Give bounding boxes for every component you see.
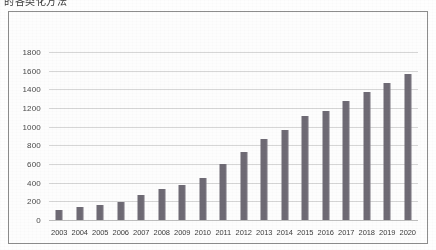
y-axis-tick-label: 0 [36, 216, 41, 225]
x-axis-tick-label: 2005 [92, 228, 108, 237]
bar[interactable] [384, 83, 391, 220]
bar-slot [295, 52, 316, 220]
page-root: 的各类化方法 020040060080010001200140016001800… [0, 0, 436, 250]
y-axis: 020040060080010001200140016001800 [9, 52, 45, 220]
y-axis-tick-label: 1400 [22, 85, 41, 94]
bar[interactable] [363, 92, 370, 220]
bar-slot [70, 52, 91, 220]
bar[interactable] [97, 205, 104, 220]
y-axis-tick-label: 400 [27, 179, 41, 188]
bar[interactable] [179, 185, 186, 220]
x-axis-tick-label: 2008 [154, 228, 170, 237]
bar-slot [336, 52, 357, 220]
y-axis-tick-label: 800 [27, 141, 41, 150]
x-axis-tick-label: 2020 [400, 228, 416, 237]
bar-slot [234, 52, 255, 220]
x-axis-tick-label: 2010 [195, 228, 211, 237]
y-axis-tick-label: 200 [27, 197, 41, 206]
bar-slot [111, 52, 132, 220]
bar[interactable] [56, 210, 63, 220]
top-caption-text: 的各类化方法 [4, 0, 67, 7]
y-axis-tick-label: 1600 [22, 67, 41, 76]
bar-slot [254, 52, 275, 220]
x-axis-tick-label: 2013 [256, 228, 272, 237]
bar-slot [398, 52, 419, 220]
bar[interactable] [322, 111, 329, 220]
x-axis-tick-label: 2016 [318, 228, 334, 237]
x-axis-tick-label: 2004 [72, 228, 88, 237]
bar-slot [193, 52, 214, 220]
bar-slot [90, 52, 111, 220]
bar-slot [49, 52, 70, 220]
x-axis-tick-label: 2014 [277, 228, 293, 237]
bar-slot [152, 52, 173, 220]
bar[interactable] [343, 101, 350, 220]
bar-slot [131, 52, 152, 220]
bar[interactable] [281, 130, 288, 220]
bar-slot [172, 52, 193, 220]
gridline [49, 220, 418, 221]
bar[interactable] [404, 74, 411, 220]
bar[interactable] [302, 116, 309, 220]
x-axis-tick-label: 2019 [379, 228, 395, 237]
bar[interactable] [220, 164, 227, 220]
x-axis-tick-label: 2011 [215, 228, 231, 237]
bar-slot [377, 52, 398, 220]
x-axis-tick-label: 2003 [51, 228, 67, 237]
bar[interactable] [76, 207, 83, 220]
bar-slot [316, 52, 337, 220]
x-axis-tick-label: 2018 [359, 228, 375, 237]
chart-frame: 020040060080010001200140016001800 200320… [8, 11, 428, 244]
bar[interactable] [117, 202, 124, 220]
plot-area [49, 52, 418, 220]
y-axis-tick-label: 1800 [22, 48, 41, 57]
x-axis-tick-label: 2007 [133, 228, 149, 237]
x-axis: 2003200420052006200720082009201020112012… [49, 223, 418, 239]
x-axis-tick-label: 2009 [174, 228, 190, 237]
y-axis-tick-label: 1200 [22, 104, 41, 113]
x-axis-tick-label: 2012 [236, 228, 252, 237]
bar-slot [275, 52, 296, 220]
x-axis-tick-label: 2015 [297, 228, 313, 237]
bar[interactable] [240, 152, 247, 220]
bar-slot [357, 52, 378, 220]
x-axis-tick-label: 2017 [338, 228, 354, 237]
bars-layer [49, 52, 418, 220]
bar[interactable] [199, 178, 206, 220]
y-axis-tick-label: 1000 [22, 123, 41, 132]
x-axis-tick-label: 2006 [113, 228, 129, 237]
bar[interactable] [138, 195, 145, 220]
bar[interactable] [261, 139, 268, 220]
y-axis-tick-label: 600 [27, 160, 41, 169]
bar-slot [213, 52, 234, 220]
bar[interactable] [158, 189, 165, 220]
